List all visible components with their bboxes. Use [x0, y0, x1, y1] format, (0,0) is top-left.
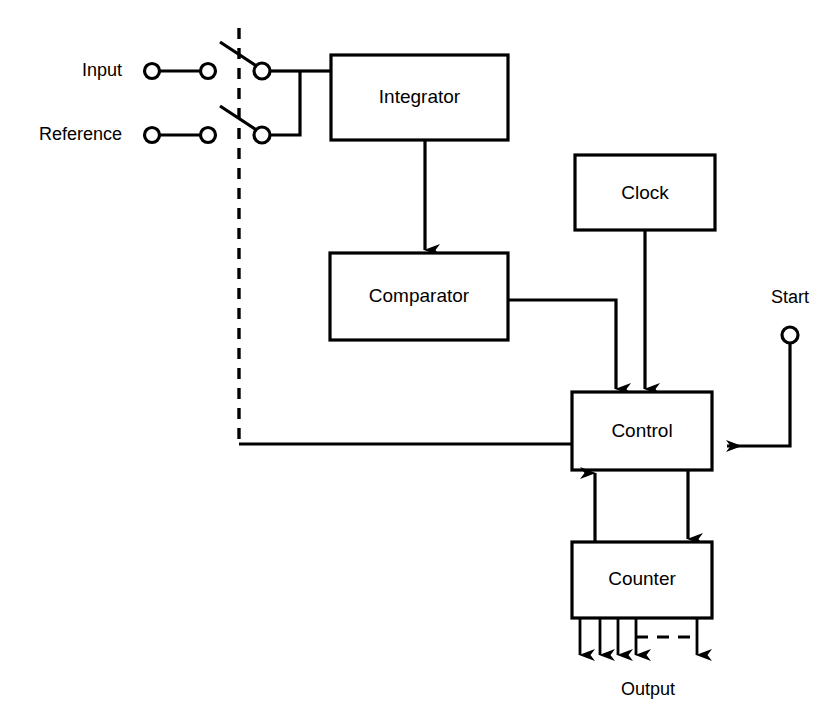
- clock-block-label: Clock: [621, 182, 669, 203]
- reference-switch-to-junction-wire: [270, 71, 300, 135]
- input-terminal-outer-circle[interactable]: [145, 64, 160, 79]
- reference-terminal-outer-circle[interactable]: [145, 128, 160, 143]
- start-terminal-label: Start: [771, 287, 809, 307]
- start-terminal-circle[interactable]: [782, 327, 798, 343]
- input-switch-blade[interactable]: [220, 42, 258, 67]
- block-diagram-canvas: Integrator Comparator Clock Control Coun…: [0, 0, 834, 726]
- input-terminal-label: Input: [82, 60, 122, 80]
- reference-terminal-inner-circle[interactable]: [201, 128, 216, 143]
- comparator-block-label: Comparator: [369, 285, 470, 306]
- input-switch-contact-circle[interactable]: [254, 63, 270, 79]
- input-terminal-inner-circle[interactable]: [201, 64, 216, 79]
- reference-terminal-label: Reference: [39, 124, 122, 144]
- start-to-control-arrow: [727, 343, 790, 446]
- counter-block-label: Counter: [608, 568, 676, 589]
- reference-switch-contact-circle[interactable]: [254, 127, 270, 143]
- integrator-block-label: Integrator: [379, 86, 461, 107]
- control-block-label: Control: [611, 420, 672, 441]
- output-bus-label: Output: [621, 679, 675, 699]
- comparator-to-control-arrow: [508, 300, 616, 389]
- diagram-svg: Integrator Comparator Clock Control Coun…: [0, 0, 834, 726]
